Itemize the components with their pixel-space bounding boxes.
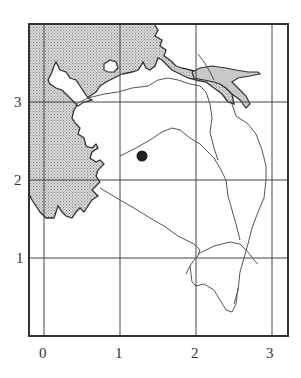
x-tick-3: 3	[266, 345, 274, 361]
y-tick-1: 1	[16, 250, 24, 266]
x-tick-2: 2	[191, 345, 199, 361]
road-central	[120, 128, 240, 240]
road-east	[232, 104, 266, 304]
x-tick-1: 1	[115, 345, 123, 361]
boundary-south	[190, 266, 238, 312]
location-marker	[137, 151, 148, 162]
land-area	[29, 24, 236, 218]
y-tick-3: 3	[14, 94, 22, 110]
road-south	[198, 242, 258, 264]
x-tick-0: 0	[39, 345, 47, 361]
map: 0 1 2 3 3 2 1	[0, 0, 301, 378]
y-tick-2: 2	[14, 172, 22, 188]
road-southwest	[100, 188, 200, 274]
